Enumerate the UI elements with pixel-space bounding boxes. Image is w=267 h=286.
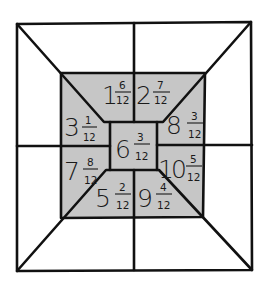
svg-text:9: 9 <box>137 184 153 213</box>
svg-text:7: 7 <box>157 79 164 91</box>
svg-text:5: 5 <box>95 184 111 213</box>
svg-text:12: 12 <box>83 132 96 143</box>
svg-text:12: 12 <box>116 94 129 106</box>
svg-text:4: 4 <box>160 181 167 193</box>
svg-text:8: 8 <box>166 111 182 140</box>
svg-text:10: 10 <box>158 155 185 184</box>
svg-text:1: 1 <box>85 115 91 126</box>
svg-text:2: 2 <box>136 81 152 110</box>
fraction-puzzle-diagram: 1 6 12 2 7 12 3 1 12 8 3 12 6 3 12 7 8 1… <box>0 0 267 286</box>
svg-text:12: 12 <box>157 199 170 211</box>
svg-text:3: 3 <box>64 113 80 142</box>
svg-text:6: 6 <box>115 135 131 164</box>
svg-text:12: 12 <box>188 128 201 140</box>
svg-text:12: 12 <box>154 94 167 106</box>
svg-text:12: 12 <box>116 199 129 211</box>
svg-text:12: 12 <box>135 150 148 162</box>
svg-text:7: 7 <box>64 157 80 186</box>
svg-text:12: 12 <box>187 171 200 183</box>
svg-text:2: 2 <box>119 181 126 193</box>
svg-text:5: 5 <box>190 153 197 165</box>
svg-text:3: 3 <box>137 131 144 143</box>
svg-text:8: 8 <box>87 156 94 168</box>
svg-text:3: 3 <box>191 110 198 122</box>
svg-text:6: 6 <box>119 79 126 91</box>
